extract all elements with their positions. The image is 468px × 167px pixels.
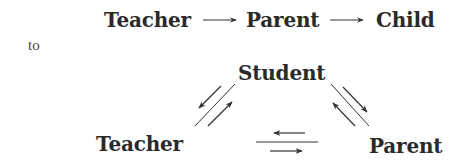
arrow-student-parent-icon [331, 84, 369, 126]
arrow-student-teacher-icon [195, 84, 235, 126]
linear-node-child: Child [376, 10, 435, 30]
triangle-node-teacher: Teacher [96, 134, 183, 154]
triangle-node-parent: Parent [369, 136, 442, 156]
linear-node-parent: Parent [246, 10, 319, 30]
connector-word: to [28, 38, 40, 53]
arrow-teacher-parent-icon [256, 133, 318, 151]
triangle-node-student: Student [238, 63, 325, 83]
linear-node-teacher: Teacher [104, 10, 191, 30]
